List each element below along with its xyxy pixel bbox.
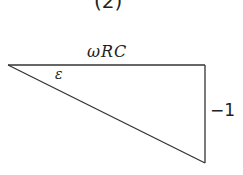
right-side-label: −1 [210,102,235,119]
triangle-diagram [0,0,243,175]
angle-label: ε [55,67,63,81]
top-side-label: ωRC [87,44,127,60]
hypotenuse-line [8,65,205,163]
